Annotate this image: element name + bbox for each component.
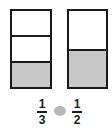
comparison-blank-circle[interactable] <box>54 106 66 116</box>
shaded-part <box>12 63 50 87</box>
divider-line <box>12 35 50 37</box>
fraction-one-third: 1 3 <box>35 98 49 126</box>
fraction-one-half: 1 2 <box>70 98 84 126</box>
denominator: 2 <box>70 114 84 126</box>
shaded-part <box>69 51 106 87</box>
numerator: 1 <box>35 98 49 110</box>
fraction-bar-thirds <box>10 9 52 89</box>
fraction-bar-halves <box>67 9 108 89</box>
denominator: 3 <box>35 114 49 126</box>
numerator: 1 <box>70 98 84 110</box>
